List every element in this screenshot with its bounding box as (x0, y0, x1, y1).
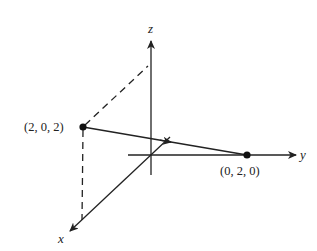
dashed-projection-to-z (85, 66, 148, 125)
point-label-2-0-2: (2, 0, 2) (24, 120, 64, 134)
x-axis-label: x (57, 231, 64, 246)
point-0-2-0 (243, 151, 250, 158)
vector-diagram: z y x (2, 0, 2) (0, 2, 0) (0, 0, 317, 251)
point-label-0-2-0: (0, 2, 0) (220, 164, 260, 178)
x-axis (70, 137, 170, 231)
point-2-0-2 (79, 123, 86, 130)
y-axis-label: y (298, 147, 306, 162)
dashed-projection-to-x (82, 130, 83, 220)
z-axis-label: z (147, 21, 153, 36)
